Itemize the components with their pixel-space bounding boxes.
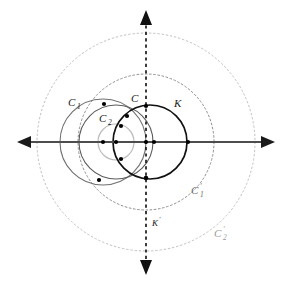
point-intersection-lower-inner: [119, 157, 123, 161]
label-C1-prime-subscript: 1: [200, 190, 204, 199]
point-origin: [144, 140, 148, 144]
label-C1-subscript: 1: [77, 102, 81, 111]
label-C2-prime-base: C: [214, 227, 222, 239]
arrowhead-left: [17, 136, 31, 148]
label-C1-prime: C 1 ′: [191, 182, 204, 199]
label-K: K: [173, 97, 182, 109]
label-C1: C 1: [68, 96, 81, 111]
point-center-K: [152, 140, 156, 144]
label-C2-prime-subscript: 2: [223, 233, 227, 242]
label-K-base: K: [173, 97, 182, 109]
label-C2-base: C: [99, 112, 107, 124]
point-intersection-mid-inner: [119, 124, 123, 128]
point-intersection-right-axis: [186, 140, 190, 144]
point-intersection-lower-left: [97, 178, 101, 182]
arrowhead-top: [140, 10, 152, 25]
point-intersection-upper-left: [102, 102, 106, 106]
point-center-C1: [101, 140, 105, 144]
label-C2: C 2: [99, 112, 112, 127]
label-C-base: C: [131, 92, 139, 104]
figure-container: C 1 C 2 C K C 1 ′ C 2 ′ K: [0, 0, 291, 285]
label-C2-subscript: 2: [108, 118, 112, 127]
point-center-C2: [114, 140, 118, 144]
label-K-prime: K ′: [151, 215, 161, 228]
point-intersection-upper-inner: [125, 114, 129, 118]
label-K-prime-base: K: [151, 218, 159, 228]
label-C1-prime-base: C: [191, 184, 199, 196]
label-C2-prime: C 2 ′: [214, 225, 227, 242]
label-K-prime-prime: ′: [159, 215, 161, 222]
circle-inversion-diagram: C 1 C 2 C K C 1 ′ C 2 ′ K: [0, 0, 291, 285]
point-intersection-top-axis: [144, 104, 148, 108]
point-intersection-bottom-axis: [144, 176, 149, 181]
label-C1-base: C: [68, 96, 76, 108]
arrowhead-right: [261, 136, 275, 148]
arrowhead-bottom: [140, 260, 152, 275]
label-C: C: [131, 92, 139, 104]
